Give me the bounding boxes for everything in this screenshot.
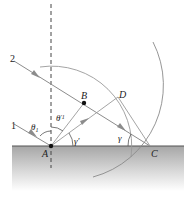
theta1-arc xyxy=(40,131,51,136)
point-b xyxy=(82,101,86,105)
point-a xyxy=(49,144,53,148)
gamma-prime-arc xyxy=(69,133,73,146)
label-gamma-prime: γ′ xyxy=(74,136,81,146)
label-theta1-prime: θ′1 xyxy=(56,113,65,123)
label-ray-1: 1 xyxy=(11,120,16,131)
label-ray-2: 2 xyxy=(10,53,15,64)
gamma-arc xyxy=(128,134,131,146)
reflecting-surface-region xyxy=(12,146,184,191)
diagram-canvas: 2 1 A B C D θ1 θ′1 γ′ γ xyxy=(0,0,194,199)
label-b: B xyxy=(81,90,87,101)
ray-2-arrow-icon xyxy=(31,70,40,78)
label-d: D xyxy=(118,89,127,100)
label-theta1: θ1 xyxy=(31,122,38,133)
theta1-prime-arc xyxy=(51,127,63,131)
label-gamma: γ xyxy=(118,133,122,143)
label-c: C xyxy=(151,148,158,159)
wavelet-arc-a xyxy=(40,66,132,157)
line-d-c xyxy=(118,97,150,146)
reflection-diagram: 2 1 A B C D θ1 θ′1 γ′ γ xyxy=(0,0,194,199)
ray-2-arrow-near-c-icon xyxy=(117,123,126,131)
label-a: A xyxy=(41,148,49,159)
